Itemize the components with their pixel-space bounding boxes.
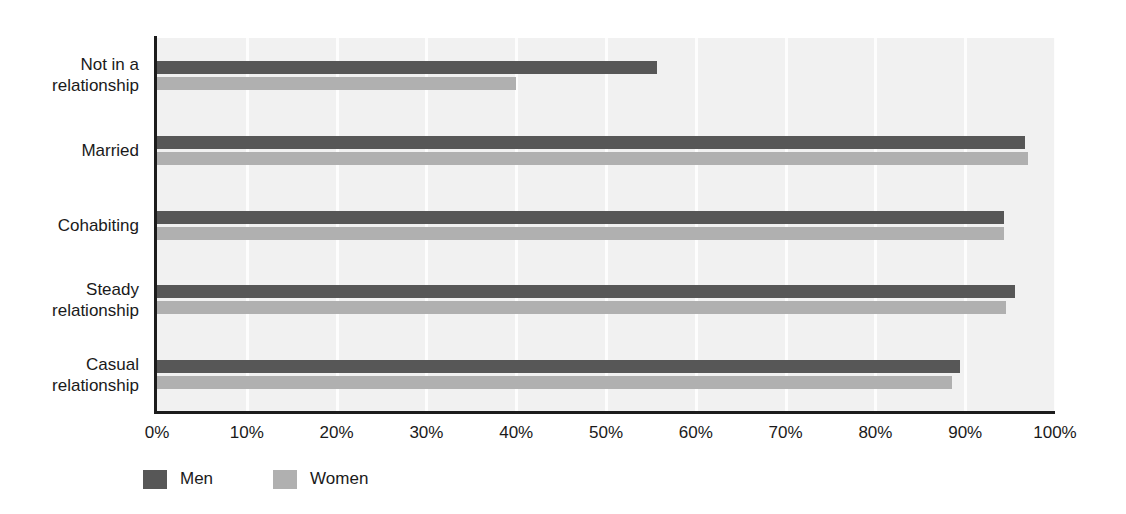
- bar-men-4: [157, 360, 960, 373]
- x-tick-label: 10%: [230, 422, 264, 444]
- x-tick-label: 40%: [499, 422, 533, 444]
- category-axis: Not in a relationshipMarriedCohabitingSt…: [0, 38, 148, 412]
- gridline: [425, 38, 428, 412]
- x-tick-label: 60%: [679, 422, 713, 444]
- legend-item-women[interactable]: Women: [273, 469, 368, 489]
- bar-women-2: [157, 227, 1004, 240]
- x-tick-label: 50%: [589, 422, 623, 444]
- gridline: [605, 38, 608, 412]
- legend-label: Men: [180, 469, 213, 489]
- chart-legend: MenWomen: [143, 466, 428, 492]
- gridline: [515, 38, 518, 412]
- x-tick-label: 90%: [948, 422, 982, 444]
- bar-women-0: [157, 77, 516, 90]
- gridline: [336, 38, 339, 412]
- x-axis-ticks: 0%10%20%30%40%50%60%70%80%90%100%: [0, 422, 1126, 450]
- legend-swatch-women-icon: [273, 470, 297, 489]
- category-label: Casual relationship: [0, 354, 139, 396]
- legend-label: Women: [310, 469, 368, 489]
- bar-chart: Not in a relationshipMarriedCohabitingSt…: [0, 0, 1126, 514]
- plot-area: [157, 38, 1055, 412]
- legend-swatch-men-icon: [143, 470, 167, 489]
- category-label: Married: [0, 140, 139, 161]
- gridline: [246, 38, 249, 412]
- category-label: Cohabiting: [0, 215, 139, 236]
- gridline: [1054, 38, 1055, 412]
- gridline: [785, 38, 788, 412]
- x-axis-line: [154, 411, 1055, 414]
- category-label: Not in a relationship: [0, 54, 139, 96]
- legend-item-men[interactable]: Men: [143, 469, 213, 489]
- bar-women-4: [157, 376, 952, 389]
- bar-men-1: [157, 136, 1025, 149]
- x-tick-label: 100%: [1033, 422, 1076, 444]
- bar-women-1: [157, 152, 1028, 165]
- bar-women-3: [157, 301, 1006, 314]
- x-tick-label: 70%: [769, 422, 803, 444]
- category-label: Steady relationship: [0, 279, 139, 321]
- bar-men-3: [157, 285, 1015, 298]
- bar-men-2: [157, 211, 1004, 224]
- gridline: [695, 38, 698, 412]
- x-tick-label: 80%: [858, 422, 892, 444]
- x-tick-label: 0%: [145, 422, 170, 444]
- bar-men-0: [157, 61, 657, 74]
- x-tick-label: 20%: [320, 422, 354, 444]
- y-axis-line: [154, 36, 157, 414]
- gridline: [964, 38, 967, 412]
- gridline: [874, 38, 877, 412]
- x-tick-label: 30%: [409, 422, 443, 444]
